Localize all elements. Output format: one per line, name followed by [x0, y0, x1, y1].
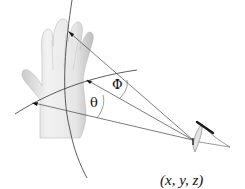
sensor-position-label: (x, y, z) [160, 173, 203, 188]
hand-model [22, 19, 93, 138]
arrowhead-palm [86, 80, 92, 84]
diagram-canvas [0, 0, 245, 189]
arrowhead-wrist [32, 102, 38, 106]
ray-to-palm-center [87, 80, 193, 140]
theta-label: θ [90, 96, 98, 109]
diagram: θ Φ (x, y, z) [0, 0, 245, 189]
ray-to-fingertip [69, 32, 193, 140]
phi-label: Φ [112, 78, 123, 91]
theta-angle-arc [97, 95, 104, 118]
sensor-device [193, 122, 230, 152]
